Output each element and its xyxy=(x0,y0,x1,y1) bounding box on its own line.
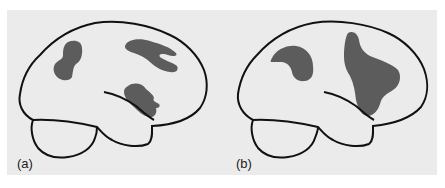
region-a-frontal xyxy=(54,41,83,81)
brain-outline-a xyxy=(20,22,207,146)
panel-b-label: (b) xyxy=(236,157,252,170)
brain-diagram xyxy=(0,0,445,188)
panel-a-label: (a) xyxy=(17,157,33,170)
panel-a xyxy=(20,22,207,158)
region-b-frontal xyxy=(271,46,314,81)
brain-outline-b xyxy=(238,22,427,146)
region-a-parietal xyxy=(125,39,178,72)
panel-b xyxy=(238,22,427,158)
